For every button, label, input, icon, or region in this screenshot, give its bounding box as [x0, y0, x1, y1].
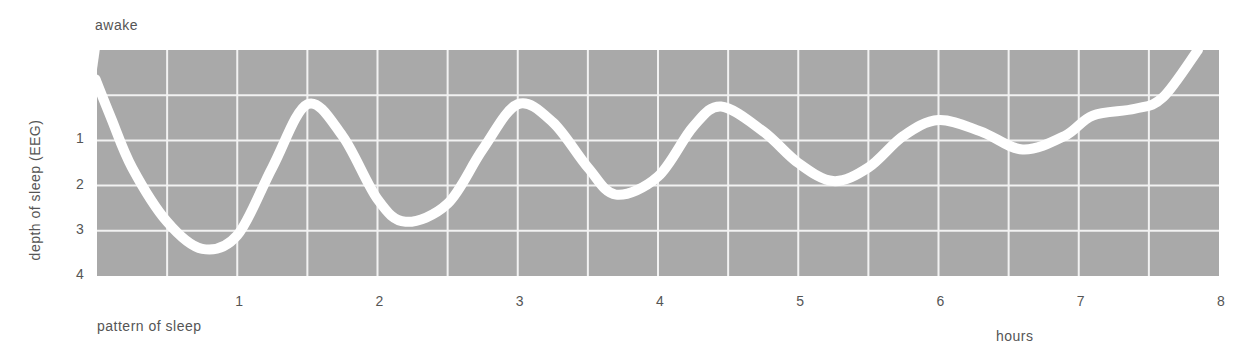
- y-tick-label: 3: [76, 221, 84, 237]
- x-tick-label: 2: [376, 293, 384, 309]
- x-axis-label: hours: [996, 328, 1034, 344]
- x-tick-label: 8: [1217, 293, 1225, 309]
- sleep-chart: [0, 0, 1248, 358]
- chart-grid: [97, 50, 1219, 276]
- y-tick-label: 4: [76, 266, 84, 282]
- x-tick-label: 7: [1077, 293, 1085, 309]
- x-tick-label: 1: [235, 293, 243, 309]
- y-tick-label: 2: [76, 176, 84, 192]
- awake-label: awake: [95, 17, 138, 33]
- x-tick-label: 3: [516, 293, 524, 309]
- x-tick-label: 6: [937, 293, 945, 309]
- y-axis-label: depth of sleep (EEG): [27, 120, 43, 261]
- y-tick-label: 1: [76, 130, 84, 146]
- top-mask: [0, 0, 1248, 49]
- x-tick-label: 5: [796, 293, 804, 309]
- chart-title: pattern of sleep: [97, 318, 202, 334]
- x-tick-label: 4: [656, 293, 664, 309]
